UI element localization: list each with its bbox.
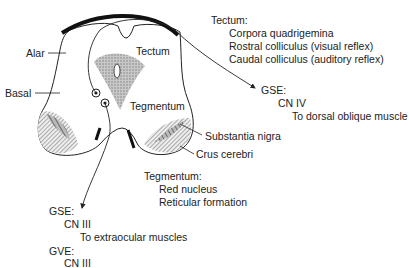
basal-label: Basal [5, 87, 31, 99]
gse-cn4-nerve: CN IV [278, 97, 306, 109]
gve-cn3-heading: GVE: [49, 245, 74, 257]
crus-cerebri-label: Crus cerebri [196, 148, 253, 160]
tegmentum-note-line: Red nucleus [159, 183, 217, 195]
midbrain-diagram: Alar Basal Tectum Tegmentum Substantia n… [0, 0, 409, 268]
crus-cerebri-leader [180, 146, 194, 154]
tegmentum-label: Tegmentum [130, 100, 185, 112]
gse-cn3-heading: GSE: [49, 205, 74, 217]
tectum-note-line: Caudal colliculus (auditory reflex) [229, 53, 384, 65]
alar-label: Alar [26, 47, 45, 59]
gse-cn3-nerve: CN III [64, 218, 91, 230]
tectum-note-heading: Tectum: [211, 14, 248, 26]
tectum-label: Tectum [136, 45, 170, 57]
gse-cn4-heading: GSE: [261, 84, 286, 96]
cerebral-aqueduct [114, 64, 120, 78]
substantia-nigra-label: Substantia nigra [205, 130, 281, 142]
gve-cn3-nerve: CN III [64, 257, 91, 268]
tectum-note-line: Rostral colliculus (visual reflex) [229, 40, 373, 52]
tectum-note-line: Corpora quadrigemina [229, 27, 333, 39]
gse-cn3-target: To extraocular muscles [80, 231, 187, 243]
gse-cn4-target: To dorsal oblique muscle [292, 110, 408, 122]
tegmentum-note-heading: Tegmentum: [144, 170, 202, 182]
tegmentum-note-line: Reticular formation [159, 196, 247, 208]
